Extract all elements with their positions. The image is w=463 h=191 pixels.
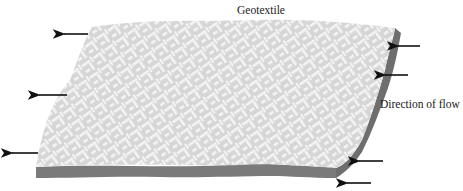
geotextile-flow-diagram: Geotextile Direction of flow xyxy=(0,0,463,191)
title-label: Geotextile xyxy=(237,4,285,16)
direction-of-flow-label: Direction of flow xyxy=(380,98,461,110)
geotextile-sheet xyxy=(36,20,395,168)
sheet-front-edge xyxy=(36,164,336,178)
